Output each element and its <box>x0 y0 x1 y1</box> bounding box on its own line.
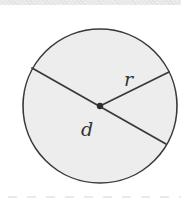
center-point <box>97 103 103 109</box>
circle-diagram: r d <box>0 0 181 205</box>
diameter-label: d <box>81 118 93 140</box>
